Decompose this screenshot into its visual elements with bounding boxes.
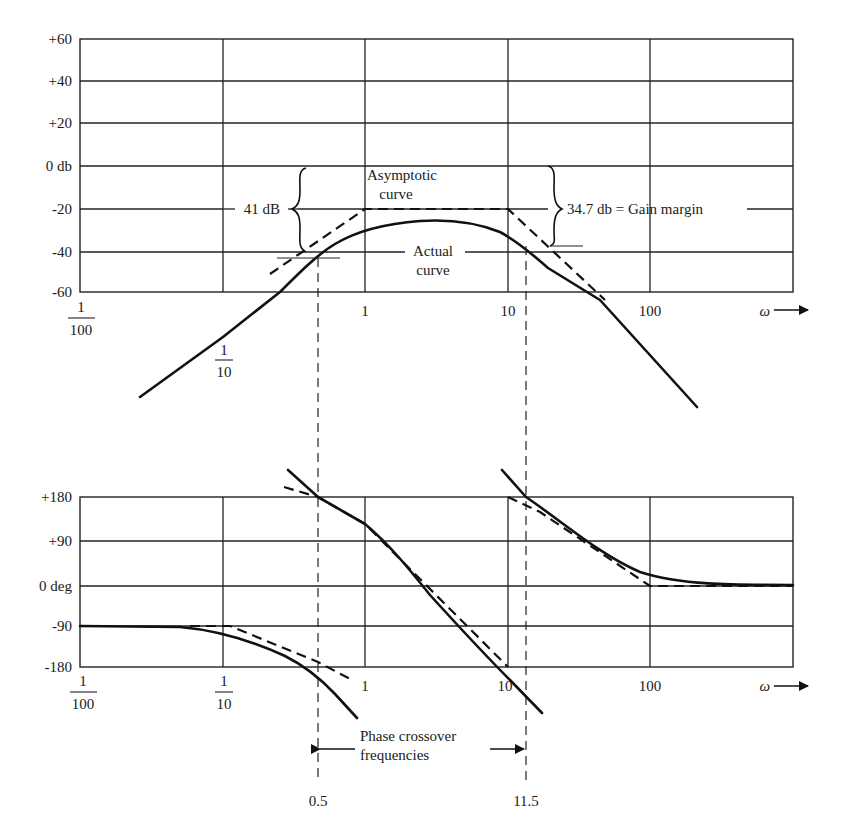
margin-41-db-label: 41 dB (244, 201, 280, 217)
fraction-numerator: 1 (220, 673, 228, 689)
gain-ytick: +40 (49, 73, 72, 89)
gain-xtick-1-10: 1 10 (215, 342, 233, 380)
omega-symbol: ω (759, 678, 770, 694)
gain-ytick: +20 (49, 115, 72, 131)
gain-xtick-1: 1 (361, 303, 369, 319)
phase-ytick: 0 deg (39, 578, 72, 594)
fraction-numerator: 1 (79, 673, 87, 689)
actual-label: Actual (413, 243, 453, 259)
fraction-denominator: 100 (72, 696, 95, 712)
fraction-denominator: 100 (70, 322, 93, 338)
phase-omega-axis-label: ω (759, 678, 808, 694)
gain-ytick: 0 db (46, 158, 72, 174)
omega-symbol: ω (759, 303, 770, 319)
bode-diagram: +60 +40 +20 0 db -20 -40 -60 1 100 1 10 … (0, 0, 844, 838)
phase-ytick: +180 (41, 489, 72, 505)
gain-omega-axis-label: ω (759, 303, 808, 319)
fraction-denominator: 10 (217, 696, 232, 712)
phase-actual-3 (502, 470, 793, 585)
phase-xtick-100: 100 (639, 678, 662, 694)
fraction-numerator: 1 (77, 299, 85, 315)
gain-xtick-1-100: 1 100 (68, 299, 95, 338)
crossover-freq-high: 11.5 (513, 793, 539, 809)
brace-gain-margin (548, 166, 562, 246)
gain-xtick-100: 100 (639, 303, 662, 319)
gain-ytick: +60 (49, 31, 72, 47)
phase-ytick: +90 (49, 533, 72, 549)
phase-xtick-1-100: 1 100 (70, 673, 97, 712)
phase-actual-2 (288, 470, 542, 713)
phase-ytick: -180 (45, 659, 73, 675)
phase-asymptote-1 (190, 626, 352, 680)
asymptotic-label: Asymptotic (367, 167, 437, 183)
gain-ytick: -60 (52, 284, 72, 300)
phase-plot: +180 +90 0 deg -90 -180 1 100 1 10 1 10 … (39, 470, 808, 809)
fraction-numerator: 1 (220, 342, 228, 358)
gain-margin-label: 34.7 db = Gain margin (567, 201, 704, 217)
gain-xtick-10: 10 (501, 303, 516, 319)
fraction-denominator: 10 (217, 364, 232, 380)
phase-xtick-1-10: 1 10 (215, 673, 233, 712)
asymptotic-label: curve (379, 186, 413, 202)
phase-ytick: -90 (52, 618, 72, 634)
gain-plot: +60 +40 +20 0 db -20 -40 -60 1 100 1 10 … (46, 31, 808, 407)
actual-label: curve (416, 262, 450, 278)
phase-crossover-label: Phase crossover (360, 728, 456, 744)
crossover-freq-low: 0.5 (309, 793, 328, 809)
brace-41-db (292, 168, 306, 252)
gain-ytick: -20 (52, 201, 72, 217)
phase-xtick-1: 1 (361, 678, 369, 694)
phase-crossover-label: frequencies (360, 747, 429, 763)
gain-ytick: -40 (52, 244, 72, 260)
